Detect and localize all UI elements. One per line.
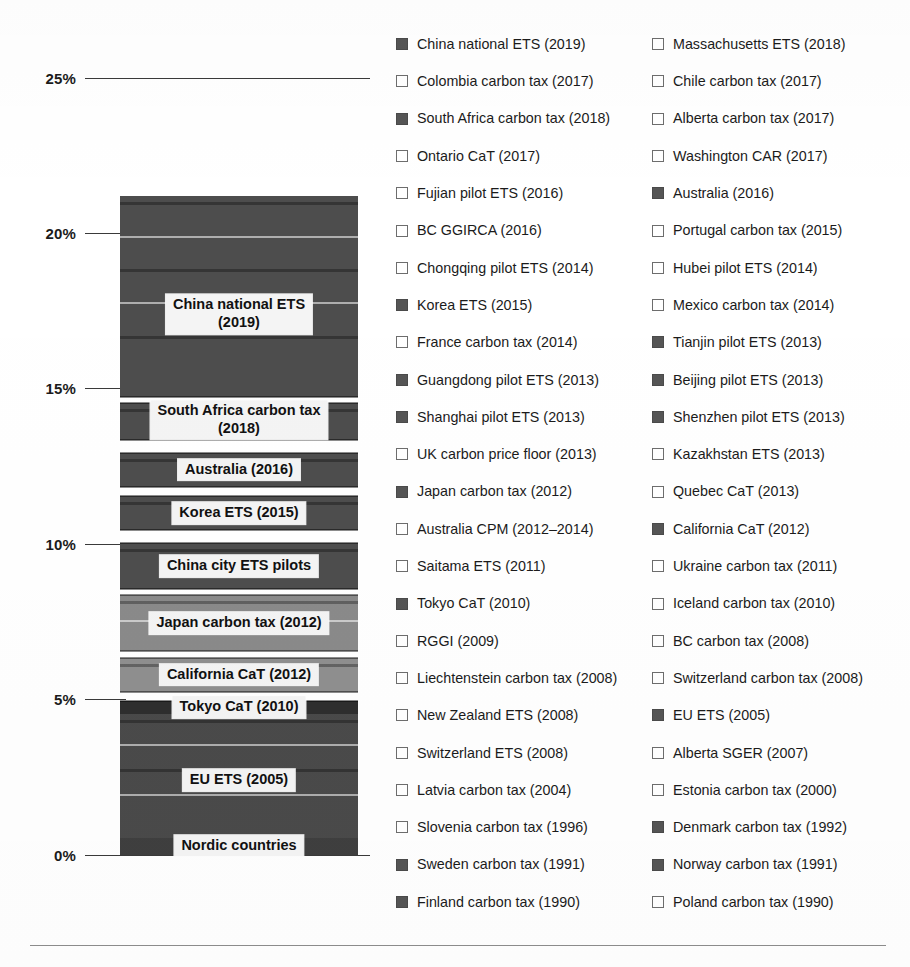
legend-swatch-hollow-icon xyxy=(652,448,664,460)
legend-item[interactable]: EU ETS (2005) xyxy=(652,705,770,725)
y-axis-tick-rule xyxy=(85,78,370,79)
legend-item[interactable]: BC GGIRCA (2016) xyxy=(396,221,542,241)
legend-item-label: Estonia carbon tax (2000) xyxy=(673,783,837,797)
legend-item-label: Latvia carbon tax (2004) xyxy=(417,783,571,797)
legend-item[interactable]: Liechtenstein carbon tax (2008) xyxy=(396,668,617,688)
legend-swatch-hollow-icon xyxy=(396,635,408,647)
legend-item-label: Portugal carbon tax (2015) xyxy=(673,223,842,237)
legend-item[interactable]: Korea ETS (2015) xyxy=(396,295,532,315)
legend-swatch-hollow-icon xyxy=(396,784,408,796)
legend-item[interactable]: Guangdong pilot ETS (2013) xyxy=(396,370,599,390)
bar-segment-divider xyxy=(120,657,358,659)
legend-item[interactable]: Slovenia carbon tax (1996) xyxy=(396,817,588,837)
legend-item-label: EU ETS (2005) xyxy=(673,708,770,722)
legend-swatch-filled-icon xyxy=(652,523,664,535)
legend-item[interactable]: Finland carbon tax (1990) xyxy=(396,892,580,912)
legend-swatch-hollow-icon xyxy=(396,75,408,87)
legend-item[interactable]: Alberta carbon tax (2017) xyxy=(652,109,834,129)
legend-item[interactable]: Portugal carbon tax (2015) xyxy=(652,221,842,241)
legend-item[interactable]: Mexico carbon tax (2014) xyxy=(652,295,834,315)
legend-item[interactable]: Chongqing pilot ETS (2014) xyxy=(396,258,593,278)
legend-item[interactable]: Tokyo CaT (2010) xyxy=(396,594,530,614)
y-axis-tick-5: 5% xyxy=(30,691,126,709)
legend-item[interactable]: Quebec CaT (2013) xyxy=(652,482,799,502)
legend-item[interactable]: BC carbon tax (2008) xyxy=(652,631,809,651)
bar-segment-divider xyxy=(120,588,358,590)
bar-segment-label: EU ETS (2005) xyxy=(183,770,295,792)
legend-item-label: Slovenia carbon tax (1996) xyxy=(417,820,588,834)
legend-item-label: Shanghai pilot ETS (2013) xyxy=(417,410,585,424)
bar-segment-label: California CaT (2012) xyxy=(160,664,318,686)
legend-item[interactable]: Shanghai pilot ETS (2013) xyxy=(396,407,585,427)
legend-item[interactable]: California CaT (2012) xyxy=(652,519,809,539)
legend-item[interactable]: Massachusetts ETS (2018) xyxy=(652,34,845,54)
legend-item[interactable]: Fujian pilot ETS (2016) xyxy=(396,183,563,203)
legend-item[interactable]: Switzerland ETS (2008) xyxy=(396,743,568,763)
legend-item[interactable]: Saitama ETS (2011) xyxy=(396,556,545,576)
legend-swatch-filled-icon xyxy=(396,598,408,610)
legend-item[interactable]: UK carbon price floor (2013) xyxy=(396,444,597,464)
legend-item[interactable]: Alberta SGER (2007) xyxy=(652,743,808,763)
bar-segment-divider xyxy=(120,691,358,693)
legend-item-label: Tokyo CaT (2010) xyxy=(417,596,530,610)
legend-item-label: France carbon tax (2014) xyxy=(417,335,578,349)
legend-item[interactable]: Japan carbon tax (2012) xyxy=(396,482,572,502)
legend-item[interactable]: RGGI (2009) xyxy=(396,631,499,651)
legend-item-label: Liechtenstein carbon tax (2008) xyxy=(417,671,617,685)
legend-item[interactable]: Beijing pilot ETS (2013) xyxy=(652,370,823,390)
legend-item[interactable]: China national ETS (2019) xyxy=(396,34,585,54)
legend-swatch-filled-icon xyxy=(652,821,664,833)
legend-item[interactable]: Kazakhstan ETS (2013) xyxy=(652,444,825,464)
legend-item[interactable]: Sweden carbon tax (1991) xyxy=(396,855,585,875)
legend-swatch-filled-icon xyxy=(396,411,408,423)
legend-swatch-hollow-icon xyxy=(652,38,664,50)
legend-item-label: Fujian pilot ETS (2016) xyxy=(417,186,563,200)
legend-item[interactable]: Chile carbon tax (2017) xyxy=(652,71,822,91)
legend-item-label: Sweden carbon tax (1991) xyxy=(417,857,585,871)
legend-item-label: Colombia carbon tax (2017) xyxy=(417,74,593,88)
legend-item[interactable]: Hubei pilot ETS (2014) xyxy=(652,258,818,278)
bar-sub-stripe xyxy=(120,744,358,746)
legend-swatch-hollow-icon xyxy=(396,187,408,199)
legend-item-label: Norway carbon tax (1991) xyxy=(673,857,838,871)
legend-item[interactable]: Australia CPM (2012–2014) xyxy=(396,519,593,539)
bar-segment-label: Tokyo CaT (2010) xyxy=(173,697,306,719)
legend-item[interactable]: Australia (2016) xyxy=(652,183,774,203)
legend-item-label: Korea ETS (2015) xyxy=(417,298,532,312)
y-axis-tick-label: 15% xyxy=(30,380,76,397)
legend-item[interactable]: Estonia carbon tax (2000) xyxy=(652,780,837,800)
legend-swatch-hollow-icon xyxy=(396,225,408,237)
legend-item[interactable]: New Zealand ETS (2008) xyxy=(396,705,578,725)
legend-swatch-hollow-icon xyxy=(652,113,664,125)
legend-item-label: Switzerland carbon tax (2008) xyxy=(673,671,863,685)
chart-canvas: 0%5%10%15%20%25% Nordic countriesEU ETS … xyxy=(0,0,910,967)
legend-item[interactable]: Latvia carbon tax (2004) xyxy=(396,780,571,800)
legend-item-label: China national ETS (2019) xyxy=(417,37,585,51)
bar-segment-label: Australia (2016) xyxy=(178,459,300,481)
legend-item[interactable]: Switzerland carbon tax (2008) xyxy=(652,668,863,688)
bar-segment-label: China national ETS (2019) xyxy=(166,295,312,334)
bar-segment-divider xyxy=(120,486,358,488)
legend-item[interactable]: Ontario CaT (2017) xyxy=(396,146,540,166)
bar-segment-divider xyxy=(120,529,358,531)
bar-segment-divider xyxy=(120,396,358,398)
legend-item[interactable]: Ukraine carbon tax (2011) xyxy=(652,556,837,576)
legend-item-label: Saitama ETS (2011) xyxy=(417,559,545,573)
legend-item[interactable]: Colombia carbon tax (2017) xyxy=(396,71,593,91)
legend-item-label: Denmark carbon tax (1992) xyxy=(673,820,847,834)
legend-swatch-hollow-icon xyxy=(652,150,664,162)
legend-swatch-filled-icon xyxy=(652,374,664,386)
legend-item-label: BC GGIRCA (2016) xyxy=(417,223,542,237)
legend-item-label: Iceland carbon tax (2010) xyxy=(673,596,835,610)
legend-item[interactable]: South Africa carbon tax (2018) xyxy=(396,109,610,129)
legend-item[interactable]: France carbon tax (2014) xyxy=(396,332,578,352)
legend-swatch-filled-icon xyxy=(396,113,408,125)
legend-item-label: Poland carbon tax (1990) xyxy=(673,895,834,909)
legend-item[interactable]: Iceland carbon tax (2010) xyxy=(652,594,835,614)
legend-item[interactable]: Norway carbon tax (1991) xyxy=(652,855,838,875)
legend-item[interactable]: Tianjin pilot ETS (2013) xyxy=(652,332,822,352)
legend-item[interactable]: Poland carbon tax (1990) xyxy=(652,892,834,912)
legend-item[interactable]: Denmark carbon tax (1992) xyxy=(652,817,847,837)
legend-item[interactable]: Washington CAR (2017) xyxy=(652,146,827,166)
legend-item[interactable]: Shenzhen pilot ETS (2013) xyxy=(652,407,845,427)
